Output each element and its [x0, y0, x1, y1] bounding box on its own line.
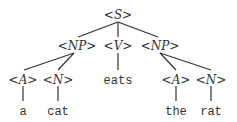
parse-tree-diagram: <S> <NP> <V> <NP> <A> <N> eats <A> <N> a… — [0, 0, 237, 122]
tree-edges — [23, 22, 211, 101]
leaf-rat: rat — [200, 105, 222, 119]
node-a-left: <A> — [9, 73, 38, 87]
node-n-left: <N> — [43, 73, 74, 87]
node-s: <S> — [104, 8, 132, 22]
node-np-right: <NP> — [141, 39, 180, 53]
node-np-left: <NP> — [58, 39, 97, 53]
leaf-a: a — [19, 105, 26, 119]
node-v: <V> — [104, 39, 133, 53]
leaf-the: the — [165, 105, 187, 119]
leaf-cat: cat — [47, 105, 69, 119]
node-a-right: <A> — [162, 73, 191, 87]
leaf-eats: eats — [104, 74, 133, 88]
node-n-right: <N> — [196, 73, 227, 87]
